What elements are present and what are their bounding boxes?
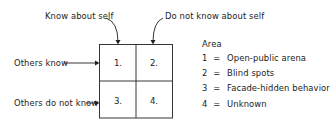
arrowhead-icon [95,61,100,66]
cell-3: 3. [100,96,136,106]
cell-2: 2. [136,58,172,68]
legend-item-4: 4 = Unknown [202,99,267,109]
legend-item-3: 3 = Facade-hidden behavior [202,83,330,93]
row-label-others-know: Others know [14,58,68,68]
legend-num: 1 [202,53,207,63]
legend-label: Facade-hidden behavior [227,83,330,93]
column-label-do-not-know-about-self: Do not know about self [165,11,264,21]
legend-sep: = [213,99,220,109]
do-not-know-about-self-arrow [153,18,163,42]
cell-1: 1. [100,58,136,68]
legend-sep: = [213,83,220,93]
column-label-know-about-self: Know about self [45,11,114,21]
legend-sep: = [213,68,220,78]
legend-title: Area [202,39,222,49]
legend-num: 3 [202,83,207,93]
know-about-self-arrow [106,18,118,42]
legend-sep: = [213,53,220,63]
legend-num: 4 [202,99,207,109]
arrowhead-icon [151,40,156,45]
legend-label: Open-public arena [227,53,306,63]
arrowhead-icon [116,40,121,45]
cell-4: 4. [136,96,172,106]
legend-num: 2 [202,68,207,78]
row-label-others-do-not-know: Others do not know [14,98,98,108]
legend-label: Unknown [227,99,267,109]
legend-item-1: 1 = Open-public arena [202,53,306,63]
legend-item-2: 2 = Blind spots [202,68,274,78]
legend-label: Blind spots [227,68,274,78]
